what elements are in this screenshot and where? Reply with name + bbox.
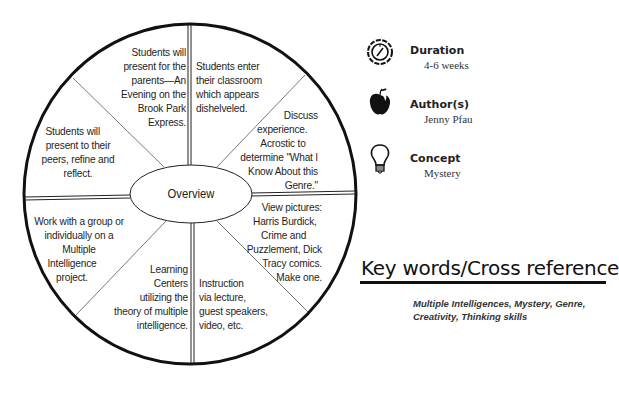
segment-lower-right: View pictures: Harris Burdick, Crime and… — [234, 200, 322, 284]
segment-line: Discuss — [223, 108, 318, 122]
segment-line: which appears — [196, 87, 284, 101]
authors-value: Jenny Pfau — [424, 113, 473, 125]
segment-lower-left: Work with a group or individually on a M… — [29, 214, 129, 284]
segment-line: Students will — [39, 124, 106, 138]
keywords-list: Multiple Intelligences, Mystery, Genre, … — [413, 297, 613, 323]
segment-line: individually on a — [29, 228, 129, 242]
segment-line: Puzzlement, Dick — [234, 242, 322, 256]
segment-line: utilizing the — [98, 290, 188, 304]
segment-line: Harris Burdick, — [234, 214, 317, 228]
lightbulb-icon — [366, 142, 394, 172]
segment-line: peers, refine and — [39, 152, 116, 166]
segment-line: Instruction — [199, 276, 287, 290]
concept-label: Concept — [410, 152, 461, 165]
segment-line: parents—An — [98, 73, 186, 87]
duration-label: Duration — [410, 44, 464, 57]
keywords-line: Creativity, Thinking skills — [413, 310, 613, 323]
duration-value: 4-6 weeks — [424, 59, 469, 71]
segment-upper-right: Discuss experience. Acrostic to determin… — [223, 108, 318, 192]
segment-line: Tracy comics. — [234, 256, 322, 270]
segment-line: determine "What I — [223, 150, 318, 164]
segment-line: Multiple — [29, 242, 129, 256]
segment-line: present for the — [98, 59, 186, 73]
segment-line: experience. — [223, 122, 307, 136]
segment-line: Work with a group or — [29, 214, 129, 228]
segment-line: View pictures: — [234, 200, 322, 214]
keywords-line: Multiple Intelligences, Mystery, Genre, — [413, 297, 613, 310]
overview-wheel-diagram: Overview Students will present for the p… — [0, 0, 380, 395]
apple-icon — [366, 86, 394, 116]
segment-line: project. — [29, 270, 115, 284]
keywords-underline — [360, 281, 606, 284]
segment-line: Evening on the — [98, 87, 186, 101]
segment-line: Brook Park — [98, 101, 186, 115]
segment-line: Students will — [98, 45, 186, 59]
segment-line: Students enter — [196, 59, 284, 73]
segment-bottom-right: Instruction via lecture, guest speakers,… — [199, 276, 287, 332]
segment-line: Acrostic to — [223, 136, 306, 150]
segment-upper-left: Students will present to their peers, re… — [39, 124, 116, 180]
segment-top-right: Students enter their classroom which app… — [196, 59, 284, 115]
segment-line: via lecture, — [199, 290, 287, 304]
segment-top-left: Students will present for the parents—An… — [98, 45, 186, 129]
segment-line: Crime and — [234, 228, 306, 242]
segment-line: guest speakers, — [199, 304, 287, 318]
segment-line: Intelligence — [29, 256, 115, 270]
segment-line: theory of multiple — [98, 304, 188, 318]
compass-clock-icon — [366, 38, 394, 68]
segment-line: Know About this — [223, 164, 318, 178]
segment-line: their classroom — [196, 73, 284, 87]
segment-line: video, etc. — [199, 318, 287, 332]
segment-line: reflect. — [39, 166, 116, 180]
concept-value: Mystery — [424, 167, 461, 179]
segment-line: intelligence. — [98, 318, 188, 332]
authors-label: Author(s) — [410, 98, 469, 111]
segment-line: Genre." — [223, 178, 318, 192]
segment-line: present to their — [39, 138, 116, 152]
keywords-heading: Key words/Cross reference — [361, 256, 619, 280]
